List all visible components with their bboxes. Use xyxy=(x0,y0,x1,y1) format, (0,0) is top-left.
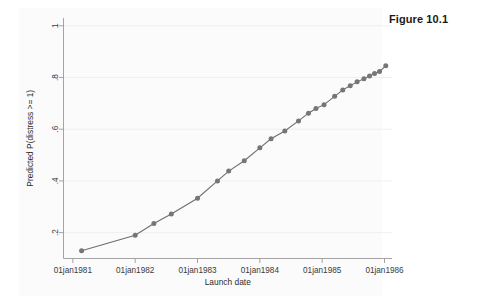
data-point-marker xyxy=(348,83,353,88)
chart-plot: .2.4.6.81 01jan198101jan198201jan198301j… xyxy=(0,0,477,306)
data-point-marker xyxy=(355,79,360,84)
x-tick-label: 01jan1983 xyxy=(178,266,217,275)
data-point-marker xyxy=(377,69,382,74)
y-tick-label: .2 xyxy=(52,229,61,236)
y-axis-title: Predicted P(distress >= 1) xyxy=(25,90,35,187)
data-point-marker xyxy=(257,145,262,150)
data-series-group xyxy=(79,63,388,253)
x-tick-label: 01jan1981 xyxy=(54,266,93,275)
data-point-marker xyxy=(361,76,366,81)
data-point-marker xyxy=(372,71,377,76)
data-point-marker xyxy=(306,111,311,116)
figure-page: Figure 10.1 .2.4.6.81 01jan198101jan1982… xyxy=(0,0,477,306)
data-point-marker xyxy=(332,94,337,99)
data-point-marker xyxy=(340,87,345,92)
y-tick-label: 1 xyxy=(52,23,61,28)
x-axis-title: Launch date xyxy=(205,277,251,287)
x-tick-label: 01jan1984 xyxy=(241,266,280,275)
data-point-marker xyxy=(215,178,220,183)
data-point-marker xyxy=(269,136,274,141)
data-point-marker xyxy=(133,233,138,238)
y-tick-label: .8 xyxy=(52,74,61,81)
data-point-marker xyxy=(169,212,174,217)
data-point-marker xyxy=(226,169,231,174)
y-ticks-group: .2.4.6.81 xyxy=(52,23,64,236)
data-point-marker xyxy=(383,63,388,68)
data-point-marker xyxy=(242,158,247,163)
y-tick-label: .6 xyxy=(52,125,61,132)
data-point-marker xyxy=(282,129,287,134)
data-point-marker xyxy=(322,102,327,107)
axes-group xyxy=(64,18,393,259)
data-point-marker xyxy=(367,73,372,78)
gridlines-group xyxy=(64,26,393,233)
data-point-marker xyxy=(313,106,318,111)
data-point-marker xyxy=(195,196,200,201)
x-tick-label: 01jan1982 xyxy=(116,266,155,275)
x-tick-label: 01jan1985 xyxy=(303,266,342,275)
data-point-marker xyxy=(79,248,84,253)
series-line xyxy=(82,66,386,251)
x-ticks-group: 01jan198101jan198201jan198301jan198401ja… xyxy=(54,259,404,275)
y-tick-label: .4 xyxy=(52,177,61,184)
data-point-marker xyxy=(296,118,301,123)
x-tick-label: 01jan1986 xyxy=(365,266,404,275)
data-point-marker xyxy=(151,221,156,226)
